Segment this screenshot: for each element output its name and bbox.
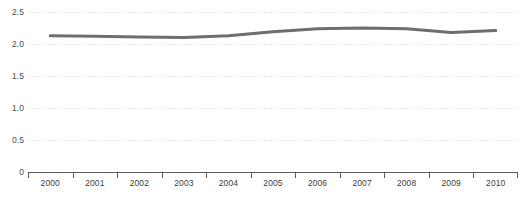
x-tick-label: 2000 [41,178,60,188]
x-tick-label: 2009 [442,178,461,188]
x-tick-label: 2008 [397,178,416,188]
line-chart: 00.51.01.52.02.5 20002001200220032004200… [0,0,522,203]
y-axis: 00.51.01.52.02.5 [0,0,24,203]
gridline [28,140,518,141]
x-tick-label: 2004 [219,178,238,188]
gridline [28,12,518,13]
x-tick-label: 2010 [486,178,505,188]
y-tick-label: 1.0 [12,103,24,113]
gridline [28,44,518,45]
x-tick-label: 2006 [308,178,327,188]
y-tick-label: 0.5 [12,135,24,145]
series-line [28,12,518,172]
x-tick-label: 2001 [85,178,104,188]
plot-area [28,12,518,172]
x-tick-label: 2005 [263,178,282,188]
x-axis: 2000200120022003200420052006200720082009… [28,178,518,200]
gridline [28,76,518,77]
series-polyline [50,28,495,38]
y-tick-label: 2.5 [12,7,24,17]
x-tick-label: 2007 [352,178,371,188]
x-tick-label: 2003 [174,178,193,188]
x-tick-label: 2002 [130,178,149,188]
y-tick-label: 2.0 [12,39,24,49]
y-tick-label: 0 [19,167,24,177]
y-tick-label: 1.5 [12,71,24,81]
gridline [28,108,518,109]
